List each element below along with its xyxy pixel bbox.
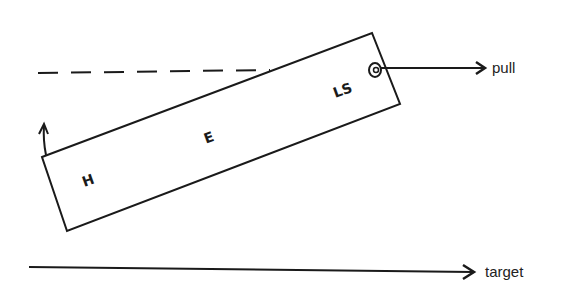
target-arrow	[29, 265, 474, 279]
pull-arrow	[381, 62, 485, 74]
attachment-loop-icon	[369, 63, 381, 77]
head-label: H	[80, 171, 96, 190]
lateral-side-label: LS	[331, 79, 354, 101]
eye-label: E	[202, 128, 216, 146]
diagram-canvas: H E LS pull target	[0, 0, 561, 306]
dashed-reference-line	[38, 70, 270, 73]
pull-label: pull	[492, 59, 515, 76]
target-label: target	[485, 263, 524, 280]
rotation-arrow-icon	[39, 124, 48, 155]
tilted-body-rectangle	[42, 33, 400, 231]
